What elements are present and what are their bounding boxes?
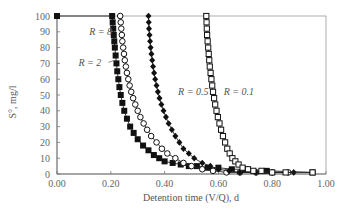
marker-open-square <box>204 20 209 25</box>
marker-filled-square <box>264 168 270 174</box>
marker-open-square <box>207 64 212 69</box>
marker-open-circle <box>118 20 124 26</box>
marker-open-circle <box>120 45 126 51</box>
marker-filled-diamond <box>150 63 156 70</box>
marker-filled-square <box>135 136 141 142</box>
marker-open-circle <box>130 95 136 101</box>
marker-open-circle <box>121 51 127 57</box>
marker-open-circle <box>164 151 170 157</box>
marker-open-square <box>213 102 218 107</box>
marker-open-circle <box>189 163 195 169</box>
x-tick-label: 0.40 <box>156 178 174 189</box>
x-tick-label: 0.20 <box>102 178 120 189</box>
marker-open-circle <box>154 140 160 146</box>
marker-filled-square <box>124 116 130 122</box>
marker-filled-square <box>110 19 116 25</box>
marker-open-circle <box>122 57 128 63</box>
marker-filled-diamond <box>147 32 153 39</box>
marker-open-circle <box>123 64 129 70</box>
y-tick-label: 40 <box>40 105 50 116</box>
marker-filled-diamond <box>147 38 153 45</box>
marker-open-square <box>204 26 209 31</box>
marker-open-circle <box>173 155 179 161</box>
marker-filled-square <box>109 13 115 19</box>
marker-open-square <box>217 121 222 126</box>
marker-filled-square <box>111 38 117 44</box>
marker-open-square <box>206 45 211 50</box>
marker-filled-diamond <box>154 82 160 89</box>
marker-filled-diamond <box>172 133 178 140</box>
y-tick-label: 10 <box>40 153 50 164</box>
x-tick-label: 0.60 <box>210 178 228 189</box>
marker-filled-diamond <box>149 57 155 64</box>
marker-filled-diamond <box>166 120 172 127</box>
series-line <box>148 16 293 172</box>
marker-filled-square <box>119 100 125 106</box>
marker-open-square <box>209 77 214 82</box>
y-tick-label: 80 <box>40 42 50 53</box>
marker-filled-diamond <box>163 114 169 121</box>
marker-filled-square <box>145 147 151 153</box>
marker-open-square <box>211 96 216 101</box>
marker-filled-diamond <box>155 89 161 96</box>
marker-open-circle <box>159 146 165 152</box>
marker-open-circle <box>210 168 216 174</box>
annotations: R = 8R = 2R = 0.5R = 0.1 <box>78 26 255 97</box>
series-r-0-1 <box>204 13 315 175</box>
marker-open-circle <box>124 70 130 76</box>
marker-filled-square <box>116 84 122 90</box>
marker-open-circle <box>199 166 205 172</box>
marker-filled-square <box>151 152 157 158</box>
marker-open-circle <box>138 114 144 120</box>
marker-open-square <box>283 170 288 175</box>
marker-open-circle <box>119 32 125 38</box>
marker-filled-diamond <box>152 76 158 83</box>
x-axis-label: Detention time (V/Q), d <box>143 192 239 204</box>
y-tick-label: 90 <box>40 26 50 37</box>
marker-filled-diamond <box>176 139 182 146</box>
x-tick-label: 0.80 <box>263 178 281 189</box>
marker-filled-square <box>112 45 118 51</box>
marker-filled-diamond <box>156 95 162 102</box>
x-tick-label: 1.00 <box>317 178 335 189</box>
marker-open-square <box>210 89 215 94</box>
marker-open-square <box>251 168 256 173</box>
marker-open-square <box>205 39 210 44</box>
marker-open-square <box>204 13 209 18</box>
marker-filled-diamond <box>199 160 205 167</box>
marker-filled-square <box>113 60 119 66</box>
marker-filled-diamond <box>148 44 154 51</box>
marker-filled-diamond <box>151 70 157 77</box>
annotation-label: R = 8 <box>88 26 112 37</box>
marker-open-square <box>220 133 225 138</box>
marker-open-circle <box>127 83 133 89</box>
y-tick-label: 30 <box>40 121 50 132</box>
marker-filled-square <box>140 143 146 149</box>
series-line <box>206 16 312 172</box>
annotation-label: R = 0.5 <box>177 86 208 97</box>
marker-open-square <box>240 165 245 170</box>
marker-filled-diamond <box>148 51 154 58</box>
marker-filled-square <box>113 53 119 59</box>
marker-open-circle <box>148 133 154 139</box>
marker-open-square <box>310 170 315 175</box>
marker-open-square <box>210 83 215 88</box>
marker-open-circle <box>181 160 187 166</box>
marker-open-square <box>218 127 223 132</box>
marker-filled-diamond <box>146 19 152 26</box>
marker-open-circle <box>118 26 124 32</box>
marker-filled-square <box>121 108 127 114</box>
y-axis-label: S°, mg/l <box>7 85 18 118</box>
marker-filled-square <box>114 68 120 74</box>
marker-open-circle <box>120 38 126 44</box>
marker-filled-diamond <box>146 25 152 32</box>
marker-filled-square <box>127 124 133 130</box>
marker-filled-diamond <box>169 126 175 133</box>
marker-filled-diamond <box>145 13 151 20</box>
marker-open-square <box>207 58 212 63</box>
marker-open-circle <box>125 76 131 82</box>
marker-open-square <box>208 70 213 75</box>
marker-open-square <box>259 168 264 173</box>
marker-open-square <box>214 108 219 113</box>
marker-open-square <box>223 140 228 145</box>
